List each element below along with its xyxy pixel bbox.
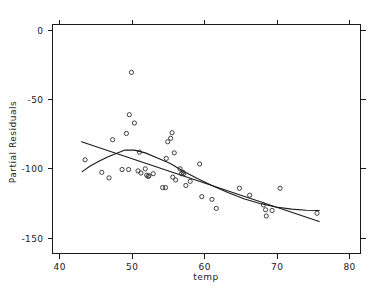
data-point	[198, 162, 202, 166]
y-tick-label: -150	[21, 234, 43, 244]
y-tick-label: -100	[21, 164, 43, 174]
fit-curves	[81, 142, 319, 222]
data-point	[132, 121, 136, 125]
data-point	[172, 151, 176, 155]
data-point	[263, 208, 267, 212]
x-tick-label: 50	[126, 262, 138, 272]
data-point	[107, 176, 111, 180]
data-point	[111, 138, 115, 142]
y-axis-title: Partial Residuals	[8, 101, 18, 183]
data-point	[200, 195, 204, 199]
data-point	[214, 206, 218, 210]
data-point	[164, 156, 168, 160]
data-point	[278, 186, 282, 190]
y-tick-label: 0	[37, 26, 43, 36]
data-point	[129, 70, 133, 74]
plot-box	[53, 25, 361, 254]
axis-tick-labels: 40506070800-50-100-150	[21, 26, 355, 272]
data-point	[100, 170, 104, 174]
plot-frame	[53, 25, 361, 254]
data-point	[188, 179, 192, 183]
data-point	[151, 172, 155, 176]
data-point	[143, 167, 147, 171]
y-tick-label: -50	[28, 95, 44, 105]
data-point	[264, 214, 268, 218]
data-point	[184, 183, 188, 187]
x-tick-label: 60	[199, 262, 211, 272]
data-point	[169, 136, 173, 140]
data-points	[83, 70, 319, 218]
data-point	[270, 208, 274, 212]
x-tick-label: 70	[271, 262, 283, 272]
x-tick-label: 80	[343, 262, 355, 272]
loess-smoother	[82, 150, 319, 210]
x-tick-label: 40	[54, 262, 66, 272]
axis-ticks	[48, 20, 366, 259]
partial-residual-plot: 40506070800-50-100-150 temp Partial Resi…	[0, 0, 385, 292]
data-point	[126, 167, 130, 171]
data-point	[127, 113, 131, 117]
data-point	[120, 167, 124, 171]
data-point	[210, 197, 214, 201]
data-point	[174, 178, 178, 182]
data-point	[248, 193, 252, 197]
x-axis-title: temp	[193, 272, 219, 282]
data-point	[163, 185, 167, 189]
data-point	[170, 131, 174, 135]
data-point	[315, 211, 319, 215]
data-point	[83, 158, 87, 162]
data-point	[237, 186, 241, 190]
plot-canvas: 40506070800-50-100-150 temp Partial Resi…	[0, 0, 385, 292]
data-point	[124, 131, 128, 135]
